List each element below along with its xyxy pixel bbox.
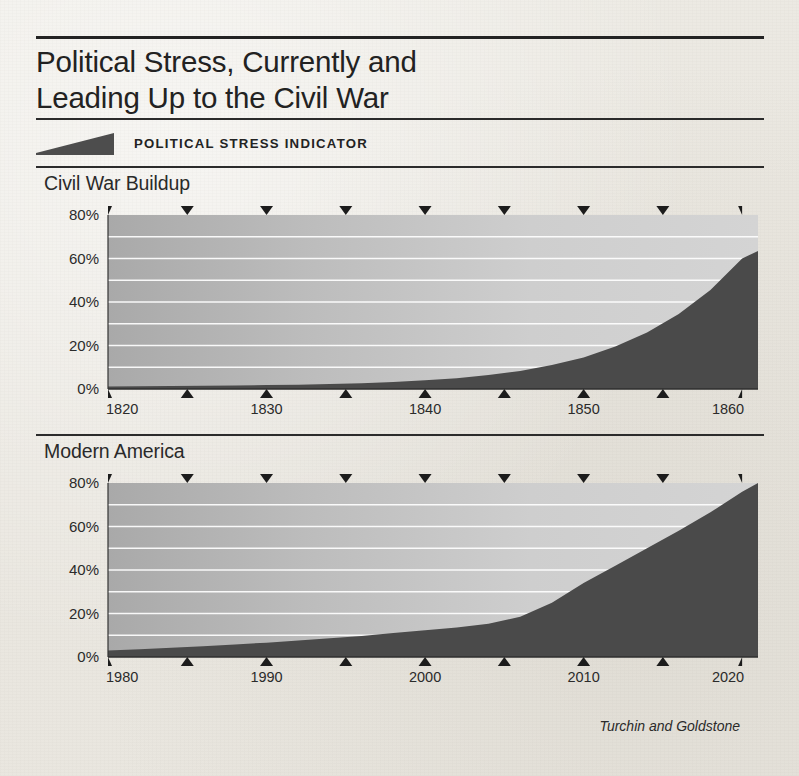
tick-marker-bottom (419, 657, 432, 666)
tick-marker-top (339, 474, 352, 483)
y-tick-label: 40% (69, 561, 99, 578)
tick-marker-top (738, 474, 742, 483)
divider-under-title (36, 118, 764, 120)
x-tick-label: 1830 (250, 401, 282, 417)
y-tick-label: 80% (69, 474, 99, 491)
tick-marker-bottom (656, 389, 669, 398)
x-tick-label: 1990 (250, 669, 282, 685)
x-tick-label: 1860 (712, 401, 744, 417)
x-axis-labels: 18201830184018501860 (106, 401, 744, 417)
tick-marker-top (108, 474, 112, 483)
tick-marker-bottom (260, 389, 273, 398)
tick-marker-top (419, 206, 432, 215)
tick-marker-bottom (181, 389, 194, 398)
x-tick-label: 1850 (567, 401, 599, 417)
page-title-line-1: Political Stress, Currently and (36, 45, 417, 78)
y-tick-label: 40% (69, 293, 99, 310)
tick-marker-top (108, 206, 112, 215)
tick-marker-bottom (419, 389, 432, 398)
x-tick-label: 2020 (712, 669, 744, 685)
tick-marker-bottom (339, 389, 352, 398)
tick-marker-bottom (498, 389, 511, 398)
x-tick-label: 1980 (106, 669, 138, 685)
divider-above-chart-1 (36, 166, 764, 168)
bottom-tick-marks (108, 657, 742, 666)
tick-marker-top (498, 474, 511, 483)
y-tick-label: 60% (69, 250, 99, 267)
x-axis-labels: 19801990200020102020 (106, 669, 744, 685)
top-tick-marks (108, 206, 742, 215)
y-tick-label: 0% (77, 648, 99, 665)
chart-panel-civil-war: Civil War Buildup 182018301840185018600%… (36, 172, 764, 419)
chart-panel-modern: Modern America 198019902000201020200%20%… (36, 440, 764, 687)
tick-marker-bottom (738, 389, 742, 398)
tick-marker-bottom (260, 657, 273, 666)
tick-marker-bottom (108, 389, 112, 398)
area-chart-2: 198019902000201020200%20%40%60%80% (36, 469, 764, 687)
x-tick-label: 2000 (409, 669, 441, 685)
tick-marker-top (577, 206, 590, 215)
tick-marker-bottom (577, 657, 590, 666)
plot-area-1: 182018301840185018600%20%40%60%80% (36, 201, 764, 419)
bottom-tick-marks (108, 389, 742, 398)
y-axis-labels: 0%20%40%60%80% (69, 206, 99, 397)
divider-above-chart-2 (36, 434, 764, 436)
divider-top (36, 36, 764, 39)
tick-marker-bottom (339, 657, 352, 666)
page-title-line-2: Leading Up to the Civil War (36, 80, 676, 116)
chart-legend: POLITICAL STRESS INDICATOR (36, 128, 368, 158)
x-tick-label: 1840 (409, 401, 441, 417)
y-tick-label: 0% (77, 380, 99, 397)
page-title: Political Stress, Currently and Leading … (36, 44, 676, 116)
chart-title-1: Civil War Buildup (44, 172, 764, 195)
tick-marker-bottom (738, 657, 742, 666)
tick-marker-bottom (181, 657, 194, 666)
tick-marker-top (656, 474, 669, 483)
tick-marker-top (181, 474, 194, 483)
legend-label: POLITICAL STRESS INDICATOR (134, 136, 368, 151)
x-tick-label: 2010 (567, 669, 599, 685)
tick-marker-bottom (498, 657, 511, 666)
chart-title-2: Modern America (44, 440, 764, 463)
wedge-swatch-icon (36, 131, 114, 155)
y-tick-label: 20% (69, 605, 99, 622)
y-tick-label: 80% (69, 206, 99, 223)
tick-marker-bottom (656, 657, 669, 666)
top-tick-marks (108, 474, 742, 483)
plot-area-2: 198019902000201020200%20%40%60%80% (36, 469, 764, 687)
x-tick-label: 1820 (106, 401, 138, 417)
tick-marker-bottom (108, 657, 112, 666)
tick-marker-top (656, 206, 669, 215)
tick-marker-top (339, 206, 352, 215)
tick-marker-top (260, 206, 273, 215)
tick-marker-top (181, 206, 194, 215)
source-credit: Turchin and Goldstone (36, 718, 764, 734)
y-axis-labels: 0%20%40%60%80% (69, 474, 99, 665)
y-tick-label: 60% (69, 518, 99, 535)
tick-marker-top (260, 474, 273, 483)
tick-marker-top (498, 206, 511, 215)
tick-marker-top (738, 206, 742, 215)
area-chart-1: 182018301840185018600%20%40%60%80% (36, 201, 764, 419)
tick-marker-top (419, 474, 432, 483)
tick-marker-bottom (577, 389, 590, 398)
tick-marker-top (577, 474, 590, 483)
y-tick-label: 20% (69, 337, 99, 354)
